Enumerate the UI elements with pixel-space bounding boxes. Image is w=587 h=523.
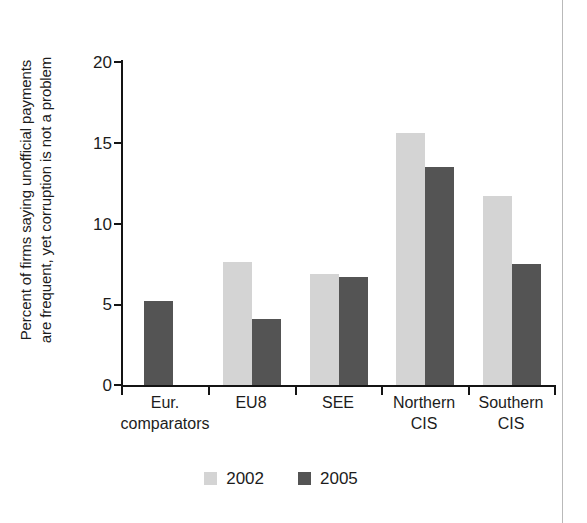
y-tick-mark-20: [114, 61, 122, 63]
x-category-label-southern-cis: Southern CIS: [456, 392, 566, 434]
y-axis-tick-labels: 20 15 10 5 0: [68, 0, 112, 400]
bar-eu8-2002[interactable]: [223, 262, 252, 385]
y-tick-label-15: 15: [72, 135, 112, 152]
legend-item-2002[interactable]: 2002: [204, 470, 264, 487]
bar-see-2002[interactable]: [310, 274, 339, 385]
chart-legend: 2002 2005: [0, 470, 562, 487]
bar-group-southern-cis: [469, 62, 556, 385]
legend-item-2005[interactable]: 2005: [298, 470, 358, 487]
bar-group-see: [296, 62, 383, 385]
y-axis-title-line-1: Percent of firms saying unofficial payme…: [16, 57, 36, 344]
bar-southern-cis-2002[interactable]: [483, 196, 512, 385]
x-category-label-line-2: CIS: [456, 413, 566, 434]
y-axis-title-line-2: are frequent, yet corruption is not a pr…: [36, 57, 56, 344]
legend-label-2005: 2005: [320, 470, 358, 487]
x-axis-line: [121, 385, 556, 387]
bar-eur-comparators-2005[interactable]: [144, 301, 173, 385]
plot-area: [122, 62, 555, 385]
legend-swatch-icon-2005: [298, 472, 311, 485]
chart-figure: Percent of firms saying unofficial payme…: [0, 0, 587, 523]
y-tick-label-10: 10: [72, 216, 112, 233]
y-tick-mark-10: [114, 223, 122, 225]
bar-see-2005[interactable]: [339, 277, 368, 385]
x-category-label-line-2: comparators: [110, 413, 220, 434]
y-tick-mark-5: [114, 304, 122, 306]
bar-group-eu8: [209, 62, 296, 385]
bar-group-eur-comparators: [122, 62, 209, 385]
figure-right-rule: [562, 0, 563, 523]
bar-northern-cis-2002[interactable]: [396, 133, 425, 385]
bar-eu8-2005[interactable]: [252, 319, 281, 385]
y-tick-mark-0: [114, 384, 122, 386]
bar-northern-cis-2005[interactable]: [425, 167, 454, 385]
bar-southern-cis-2005[interactable]: [512, 264, 541, 385]
y-axis-title: Percent of firms saying unofficial payme…: [0, 0, 72, 400]
legend-swatch-icon-2002: [204, 472, 217, 485]
y-tick-mark-15: [114, 142, 122, 144]
x-category-label-line-1: Southern: [456, 392, 566, 413]
y-tick-label-0: 0: [72, 377, 112, 394]
bar-group-northern-cis: [382, 62, 469, 385]
y-tick-label-5: 5: [72, 296, 112, 313]
legend-label-2002: 2002: [226, 470, 264, 487]
y-tick-label-20: 20: [72, 54, 112, 71]
